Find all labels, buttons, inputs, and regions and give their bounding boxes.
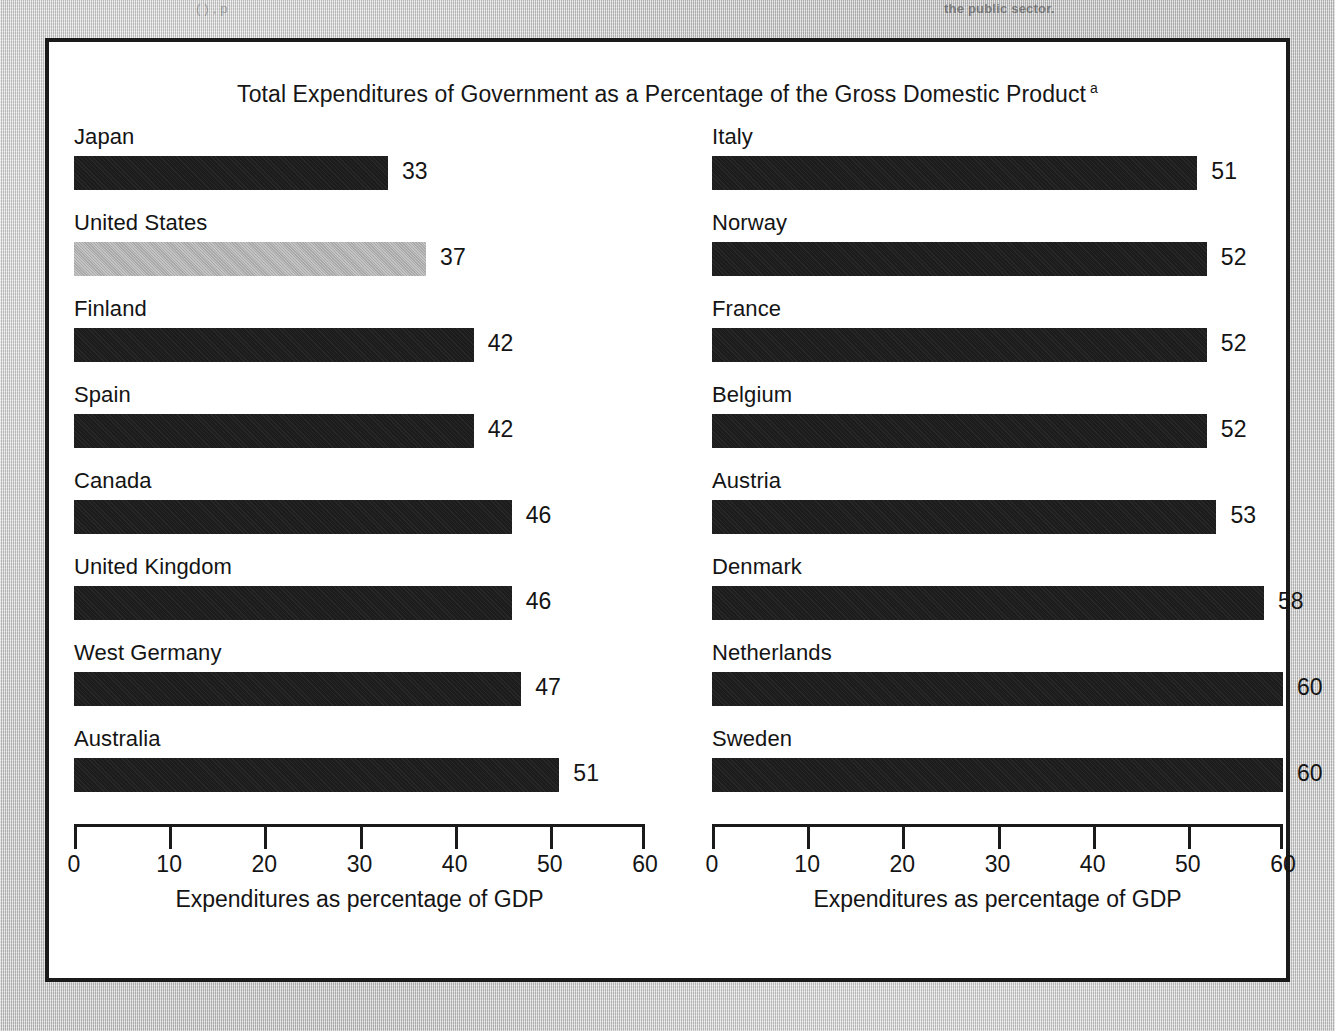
country-label: Denmark [712, 554, 802, 580]
country-label: Australia [74, 726, 161, 752]
bar-row: Australia51 [62, 726, 662, 812]
axis-tick-label: 60 [632, 851, 658, 878]
axis-tick [74, 824, 77, 849]
country-label: Norway [712, 210, 787, 236]
axis-tick-label: 40 [1080, 851, 1106, 878]
axis-tick-label: 10 [156, 851, 182, 878]
country-label: Austria [712, 468, 781, 494]
bar-value-label: 37 [440, 244, 466, 271]
axis-tick [807, 824, 810, 849]
bar-value-label: 53 [1230, 502, 1256, 529]
bar-track: 51 [74, 758, 674, 792]
bar-row: Italy51 [700, 124, 1300, 210]
bar-row: United Kingdom46 [62, 554, 662, 640]
bar-highlighted [74, 242, 426, 276]
country-label: Finland [74, 296, 147, 322]
bar [74, 672, 521, 706]
bleed-text-right: the public sector. [944, 1, 1055, 16]
bar-row: Spain42 [62, 382, 662, 468]
country-label: Canada [74, 468, 152, 494]
country-label: Italy [712, 124, 753, 150]
bar [74, 586, 512, 620]
bar [74, 414, 474, 448]
bar-track: 53 [712, 500, 1312, 534]
figure-frame: Total Expenditures of Government as a Pe… [45, 38, 1290, 982]
bar [74, 156, 388, 190]
axis-tick-label: 50 [537, 851, 563, 878]
bar-value-label: 42 [488, 416, 514, 443]
bar-row: Sweden60 [700, 726, 1300, 812]
country-label: United Kingdom [74, 554, 232, 580]
bar-value-label: 46 [526, 502, 552, 529]
country-label: Belgium [712, 382, 792, 408]
bar-track: 52 [712, 328, 1312, 362]
chart-title-text: Total Expenditures of Government as a Pe… [237, 81, 1086, 107]
bar [712, 156, 1197, 190]
bar-row: Netherlands60 [700, 640, 1300, 726]
axis-tick [550, 824, 553, 849]
bar-track: 58 [712, 586, 1312, 620]
country-label: United States [74, 210, 207, 236]
bar-row: Belgium52 [700, 382, 1300, 468]
bar-value-label: 46 [526, 588, 552, 615]
bar-track: 52 [712, 414, 1312, 448]
right-panel-axis: 0102030405060 [712, 824, 1283, 850]
bar-track: 46 [74, 586, 674, 620]
bar-value-label: 51 [573, 760, 599, 787]
bar-value-label: 60 [1297, 760, 1323, 787]
bar-row: Finland42 [62, 296, 662, 382]
bar-track: 47 [74, 672, 674, 706]
bar-row: Denmark58 [700, 554, 1300, 640]
axis-tick-label: 20 [890, 851, 916, 878]
bar-row: Austria53 [700, 468, 1300, 554]
bar-row: Norway52 [700, 210, 1300, 296]
axis-tick-label: 0 [706, 851, 719, 878]
axis-tick-label: 60 [1270, 851, 1296, 878]
bar-track: 52 [712, 242, 1312, 276]
axis-tick [455, 824, 458, 849]
axis-tick-label: 30 [347, 851, 373, 878]
chart-title: Total Expenditures of Government as a Pe… [49, 80, 1286, 108]
bar-row: United States37 [62, 210, 662, 296]
country-label: Japan [74, 124, 134, 150]
left-panel-rows: Japan33United States37Finland42Spain42Ca… [62, 124, 662, 812]
axis-tick [642, 824, 645, 849]
country-label: Netherlands [712, 640, 832, 666]
right-panel-axis-title: Expenditures as percentage of GDP [712, 886, 1283, 913]
bar-track: 60 [712, 758, 1312, 792]
bar-value-label: 52 [1221, 330, 1247, 357]
bar [712, 328, 1207, 362]
bar-value-label: 60 [1297, 674, 1323, 701]
bar-track: 60 [712, 672, 1312, 706]
page-bleed-text: ( ) , p the public sector. [0, 0, 1335, 22]
axis-tick [1280, 824, 1283, 849]
axis-tick-label: 30 [985, 851, 1011, 878]
axis-tick [902, 824, 905, 849]
axis-tick [360, 824, 363, 849]
bar-row: West Germany47 [62, 640, 662, 726]
axis-tick [1188, 824, 1191, 849]
country-label: Sweden [712, 726, 792, 752]
bar-value-label: 42 [488, 330, 514, 357]
bleed-text-left: ( ) , p [196, 1, 228, 16]
axis-tick-label: 0 [68, 851, 81, 878]
bar-track: 42 [74, 414, 674, 448]
bar-row: France52 [700, 296, 1300, 382]
bar [712, 414, 1207, 448]
bar [712, 586, 1264, 620]
axis-tick-label: 10 [794, 851, 820, 878]
bar [712, 672, 1283, 706]
axis-tick [1093, 824, 1096, 849]
country-label: France [712, 296, 781, 322]
bar [712, 500, 1216, 534]
bar-track: 46 [74, 500, 674, 534]
axis-tick [264, 824, 267, 849]
bar-value-label: 33 [402, 158, 428, 185]
bar-value-label: 52 [1221, 244, 1247, 271]
bar-row: Japan33 [62, 124, 662, 210]
axis-tick-label: 40 [442, 851, 468, 878]
axis-tick-label: 20 [252, 851, 278, 878]
left-panel: Japan33United States37Finland42Spain42Ca… [62, 124, 662, 954]
left-panel-axis: 0102030405060 [74, 824, 645, 850]
bar [712, 758, 1283, 792]
